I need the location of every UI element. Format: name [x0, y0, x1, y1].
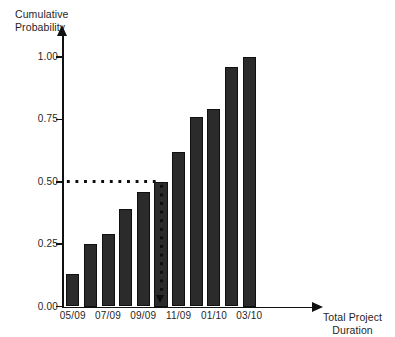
- bar: [66, 274, 79, 306]
- median-guide-horizontal-line: [64, 180, 161, 183]
- y-axis-tick-label: 0.50: [18, 176, 58, 187]
- bar: [102, 234, 115, 306]
- x-axis-arrow-icon: [312, 302, 323, 312]
- x-axis-tick-label: 11/09: [166, 310, 191, 321]
- y-axis-tick-label: 0.75: [18, 113, 58, 124]
- median-guide-vertical-line: [160, 182, 163, 295]
- median-guide-arrow-icon: [156, 295, 164, 303]
- bar: [84, 244, 97, 306]
- y-axis-tick-label: 0.00: [18, 301, 58, 312]
- bar: [207, 109, 220, 306]
- cumulative-probability-chart: Cumulative Probability Total Project Dur…: [0, 0, 395, 337]
- x-axis-tick-label: 07/09: [95, 310, 121, 321]
- y-axis-tick-mark: [56, 306, 62, 308]
- bar: [243, 57, 256, 307]
- y-axis-line: [62, 34, 64, 308]
- x-axis-tick-label: 05/09: [60, 310, 86, 321]
- y-axis-tick-mark: [56, 56, 62, 58]
- y-axis-tick-mark: [56, 119, 62, 121]
- y-axis-tick-mark: [56, 243, 62, 245]
- y-axis-tick-label: 1.00: [18, 51, 58, 62]
- y-axis-arrow-icon: [57, 25, 67, 36]
- x-axis-tick-label: 09/09: [130, 310, 156, 321]
- y-axis-tick-mark: [56, 181, 62, 183]
- bar: [172, 152, 185, 307]
- bar: [137, 192, 150, 307]
- x-axis-tick-label: 01/10: [201, 310, 227, 321]
- x-axis-title: Total Project Duration: [323, 311, 382, 336]
- bar: [190, 117, 203, 307]
- bar: [225, 67, 238, 307]
- bar: [119, 209, 132, 306]
- x-axis-tick-label: 03/10: [236, 310, 262, 321]
- x-axis-line: [62, 307, 315, 309]
- y-axis-tick-label: 0.25: [18, 238, 58, 249]
